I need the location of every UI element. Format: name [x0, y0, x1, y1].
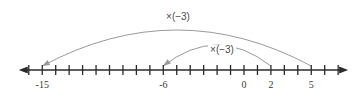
tick-label: 0: [242, 80, 247, 90]
inner-arc-arrowhead: [163, 59, 171, 66]
tick-label: -15: [36, 80, 49, 90]
tick-label: 2: [268, 80, 273, 90]
outer-arc-label: ×(−3): [164, 12, 192, 22]
tick-label: -6: [159, 80, 167, 90]
axis-group: [19, 65, 348, 75]
outer-arc-arrowhead: [42, 60, 50, 66]
outer-arc-path: [42, 30, 311, 66]
axis-right-arrowhead: [339, 66, 348, 73]
tick-label: 5: [309, 80, 314, 90]
arcs-group: [42, 30, 311, 66]
inner-arc-label: ×(−3): [208, 45, 236, 55]
axis-left-arrowhead: [19, 66, 28, 73]
number-line-figure: -15-6025 ×(−3)×(−3): [0, 0, 359, 98]
